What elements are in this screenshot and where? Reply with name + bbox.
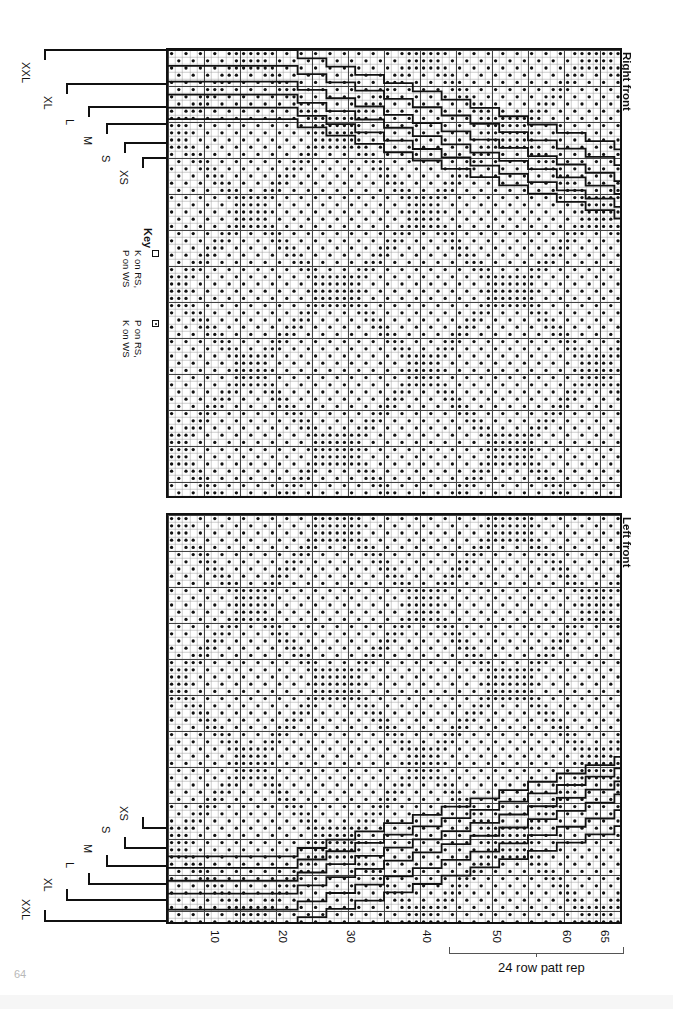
size-label-l-bottom: L <box>64 862 76 868</box>
size-label-m: M <box>82 136 94 145</box>
chart-page: XXLXLLMSXS XSSMLXLXXL Key K on RS, P on … <box>0 0 673 1009</box>
footer-band <box>0 995 673 1009</box>
row-number-60: 60 <box>561 930 573 943</box>
key-entry-1-line1: P on RS, <box>133 320 144 358</box>
size-label-xl: XL <box>42 96 54 110</box>
row-number-40: 40 <box>421 930 433 943</box>
size-label-s: S <box>100 155 112 163</box>
panel-label-right-front: Right front <box>621 52 633 111</box>
size-label-xxl: XXL <box>20 62 32 83</box>
page-number: 64 <box>14 968 26 980</box>
key-entry-0-line2: P on WS <box>121 250 132 287</box>
size-label-xxl-bottom: XXL <box>20 899 32 920</box>
size-label-l: L <box>64 119 76 125</box>
row-number-65: 65 <box>599 930 611 943</box>
key-title: Key <box>142 228 154 248</box>
chart-panel-right-front <box>166 48 622 498</box>
chart-grid-left-front <box>168 515 622 924</box>
repeat-bracket <box>449 947 624 957</box>
size-label-xs: XS <box>118 170 130 185</box>
size-label-xs-bottom: XS <box>118 806 130 821</box>
size-label-xl-bottom: XL <box>42 878 54 892</box>
row-number-10: 10 <box>209 930 221 943</box>
size-label-s-bottom: S <box>100 826 112 834</box>
row-number-30: 30 <box>345 930 357 943</box>
key-entry-1-line2: K on WS <box>121 320 132 358</box>
row-number-50: 50 <box>491 930 503 943</box>
key-entry-0-line1: K on RS, <box>133 250 144 288</box>
row-number-20: 20 <box>277 930 289 943</box>
repeat-label: 24 row patt rep <box>498 960 585 975</box>
key-symbol-empty-square <box>152 250 159 257</box>
size-label-m-bottom: M <box>82 844 94 853</box>
key-symbol-dotted-square <box>152 320 159 327</box>
panel-label-left-front: Left front <box>621 517 633 567</box>
chart-grid-right-front <box>168 50 622 498</box>
chart-panel-left-front <box>166 513 622 924</box>
